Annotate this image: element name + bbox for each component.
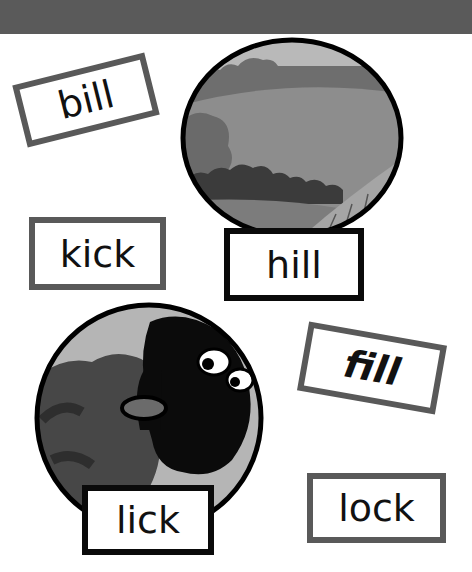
word-label: kick [60, 232, 135, 276]
word-label: lick [116, 498, 180, 542]
word-label: hill [266, 243, 322, 287]
word-card-kick[interactable]: kick [29, 217, 166, 290]
word-card-lick[interactable]: lick [82, 485, 214, 555]
word-label: fill [341, 341, 404, 394]
word-card-fill[interactable]: fill [297, 321, 447, 414]
word-card-lock[interactable]: lock [307, 473, 446, 543]
header-band [0, 0, 472, 34]
word-card-bill[interactable]: bill [12, 52, 159, 147]
hill-landscape-picture [178, 36, 406, 240]
word-label: bill [54, 72, 119, 128]
word-card-hill[interactable]: hill [224, 228, 364, 301]
word-label: lock [338, 486, 415, 530]
